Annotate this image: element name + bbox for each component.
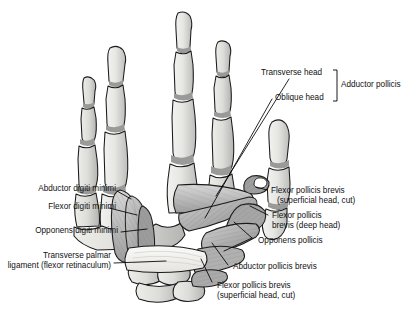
label-adductor-pollicis: Adductor pollicis (341, 80, 401, 90)
label-flexor-digiti-minimi: Flexor digiti minimi (22, 202, 116, 212)
label-fpb-superficial-bottom-line2: (superficial head, cut) (217, 291, 295, 301)
hand-anatomy-figure: Transverse head Oblique head Adductor po… (0, 0, 403, 309)
label-oblique-head: Oblique head (275, 93, 324, 103)
label-fpb-superficial-right-line2: (superficial head, cut) (277, 196, 355, 206)
label-abductor-digiti-minimi: Abductor digiti minimi (9, 184, 116, 194)
label-transverse-palmar-ligament-line1: Transverse palmar (4, 251, 111, 261)
label-abductor-pollicis-brevis: Abductor pollicis brevis (233, 262, 317, 272)
digit-index (167, 12, 197, 213)
label-fpb-deep-head-line2: brevis (deep head) (272, 221, 340, 231)
adductor-pollicis-bracket (333, 70, 337, 101)
label-opponens-digiti-minimi: Opponens digiti minimi (5, 226, 118, 236)
label-opponens-pollicis: Opponens pollicis (258, 236, 323, 246)
label-transverse-head: Transverse head (261, 68, 322, 78)
transverse-palmar-ligament (125, 246, 207, 273)
label-fpb-superficial-bottom-line1: Flexor pollicis brevis (217, 281, 291, 291)
label-fpb-superficial-right-line1: Flexor pollicis brevis (271, 186, 345, 196)
label-fpb-deep-head-line1: Flexor pollicis (272, 211, 322, 221)
label-transverse-palmar-ligament-line2: ligament (flexor retinaculum) (0, 261, 111, 271)
